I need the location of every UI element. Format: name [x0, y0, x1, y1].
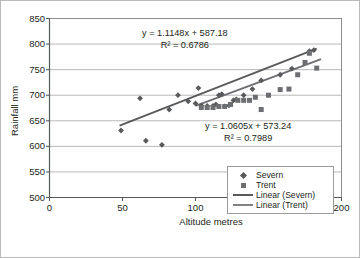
data-point-trent	[216, 104, 221, 109]
data-point-severn	[159, 142, 165, 148]
trent-r2-line: R² = 0.7989	[205, 133, 291, 145]
legend-label-linear-trent: Linear (Trent)	[256, 201, 308, 210]
line-trent-icon	[232, 204, 254, 206]
trent-equation-line: y = 1.0605x + 573.24	[205, 121, 291, 133]
data-point-severn	[137, 95, 143, 101]
data-point-severn	[250, 86, 256, 92]
chart-legend: Severn Trent Linear (Severn) Linear (Tre…	[227, 166, 334, 214]
data-point-severn	[175, 92, 181, 98]
data-point-trent	[259, 107, 264, 112]
data-point-trent	[247, 98, 252, 103]
severn-trendline-equation: y = 1.1148x + 587.18 R² = 0.6786	[142, 28, 228, 51]
data-point-trent	[286, 87, 291, 92]
diamond-marker-icon	[232, 173, 254, 178]
data-point-trent	[266, 93, 271, 98]
legend-item-linear-severn: Linear (Severn)	[232, 190, 328, 200]
chart-figure: 850800750700650600550500 050100150200 Ra…	[0, 0, 360, 258]
data-point-trent	[253, 95, 258, 100]
legend-label-severn: Severn	[256, 171, 283, 180]
data-point-severn	[118, 128, 124, 134]
data-point-trent	[303, 60, 308, 65]
legend-label-linear-severn: Linear (Severn)	[256, 191, 315, 200]
square-marker-icon	[232, 183, 254, 188]
y-tick-label-750: 750	[14, 65, 45, 75]
severn-equation-line: y = 1.1148x + 587.18	[142, 28, 228, 40]
data-point-trent	[199, 105, 204, 110]
data-point-trent	[241, 98, 246, 103]
x-tick-label-0: 0	[35, 203, 65, 213]
y-axis-title: Rainfall mm	[10, 86, 20, 136]
y-tick-label-600: 600	[14, 141, 45, 151]
data-point-trent	[211, 105, 216, 110]
data-point-trent	[295, 72, 300, 77]
severn-r2-line: R² = 0.6786	[142, 40, 228, 52]
data-point-severn	[143, 138, 149, 144]
data-point-severn	[241, 92, 247, 98]
line-severn-icon	[232, 194, 254, 196]
y-tick-label-550: 550	[14, 167, 45, 177]
x-axis-title: Altitude metres	[0, 217, 360, 227]
trent-trendline-equation: y = 1.0605x + 573.24 R² = 0.7989	[205, 121, 291, 144]
trendline-trent	[196, 59, 322, 106]
legend-item-severn: Severn	[232, 170, 328, 180]
legend-label-trent: Trent	[256, 181, 276, 190]
data-point-trent	[222, 104, 227, 109]
legend-item-trent: Trent	[232, 180, 328, 190]
y-tick-label-850: 850	[14, 14, 45, 24]
y-tick-label-800: 800	[14, 39, 45, 49]
x-tick-label-50: 50	[108, 203, 138, 213]
legend-item-linear-trent: Linear (Trent)	[232, 200, 328, 210]
data-point-severn	[196, 85, 202, 91]
x-tick-label-100: 100	[181, 203, 211, 213]
data-point-trent	[314, 66, 319, 71]
data-point-trent	[228, 102, 233, 107]
y-tick-label-500: 500	[14, 193, 45, 203]
data-point-trent	[235, 98, 240, 103]
data-point-trent	[205, 105, 210, 110]
data-point-trent	[307, 51, 312, 56]
data-point-trent	[278, 87, 283, 92]
